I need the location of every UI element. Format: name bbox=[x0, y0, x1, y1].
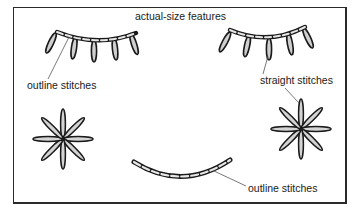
outline-stitches-label-top: outline stitches bbox=[27, 80, 96, 91]
outline-stitches-label-bottom: outline stitches bbox=[248, 183, 317, 194]
mouth-icon bbox=[134, 160, 230, 177]
diagram-title: actual-size features bbox=[135, 11, 226, 22]
right-eye-icon bbox=[218, 27, 315, 60]
leader-lines bbox=[48, 37, 299, 186]
left-star-icon bbox=[33, 109, 93, 169]
embroidery-illustration bbox=[0, 0, 355, 210]
right-star-icon bbox=[271, 99, 331, 159]
straight-stitches-label: straight stitches bbox=[260, 75, 333, 86]
